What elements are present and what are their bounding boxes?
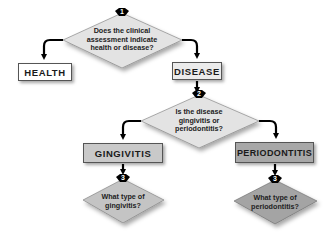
outcome-disease: DISEASE: [172, 62, 222, 80]
outcome-periodontitis: PERIODONTITIS: [235, 142, 314, 163]
decision-2-question: Is the disease gingivitis or periodontit…: [155, 108, 243, 134]
arrow-d2-to-gingivitis: [123, 121, 141, 137]
decision-3-gingivitis-question: What type of gingivitis?: [88, 193, 158, 210]
outcome-health: HEALTH: [18, 63, 72, 81]
decision-1-question: Does the clinical assessment indicate he…: [77, 27, 167, 53]
outcome-gingivitis: GINGIVITIS: [83, 143, 163, 163]
arrow-d1-to-health: [44, 40, 63, 57]
step-number-3-gingivitis: 3: [113, 173, 133, 182]
step-number-2: 2: [189, 89, 209, 98]
step-number-3-periodontitis: 3: [265, 174, 285, 183]
step-number-1: 1: [112, 7, 132, 16]
arrow-d1-to-disease: [182, 40, 197, 56]
arrow-d2-to-periodontitis: [259, 121, 276, 136]
decision-3-periodontitis-question: What type of periodontitis?: [238, 194, 312, 211]
